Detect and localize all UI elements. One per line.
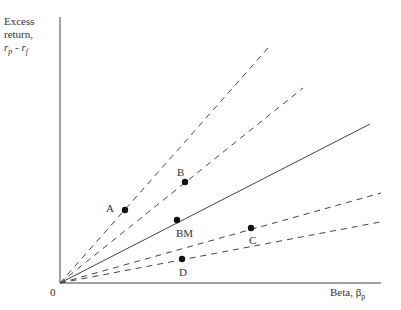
label-d: D (179, 266, 187, 278)
line-a (60, 48, 268, 283)
line-b (60, 88, 303, 283)
x-axis-label: Beta, βp (330, 286, 365, 303)
line-d (60, 222, 380, 283)
point-a (122, 207, 128, 213)
y-axis-label: Excess return, rp - rf (4, 15, 54, 58)
point-c (248, 225, 254, 231)
y-label-line1: Excess (4, 15, 54, 28)
point-d (179, 256, 185, 262)
label-bm: BM (176, 227, 193, 239)
label-b: B (177, 166, 184, 178)
point-b (182, 179, 188, 185)
point-bm (174, 217, 180, 223)
label-a: A (106, 202, 114, 214)
y-label-line3: rp - rf (4, 41, 54, 58)
origin-label: 0 (50, 286, 56, 299)
y-label-line2: return, (4, 28, 54, 41)
diagram-canvas (0, 0, 401, 310)
label-c: C (249, 234, 256, 246)
